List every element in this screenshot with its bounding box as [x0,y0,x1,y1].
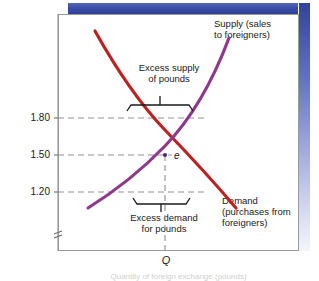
equilibrium-point-marker [163,153,167,157]
chart-overlay [0,0,319,281]
figure-container: Dollar price of foreign exchange (pounds… [0,0,319,281]
excess-demand-bracket [133,198,190,212]
demand-curve [95,31,236,208]
